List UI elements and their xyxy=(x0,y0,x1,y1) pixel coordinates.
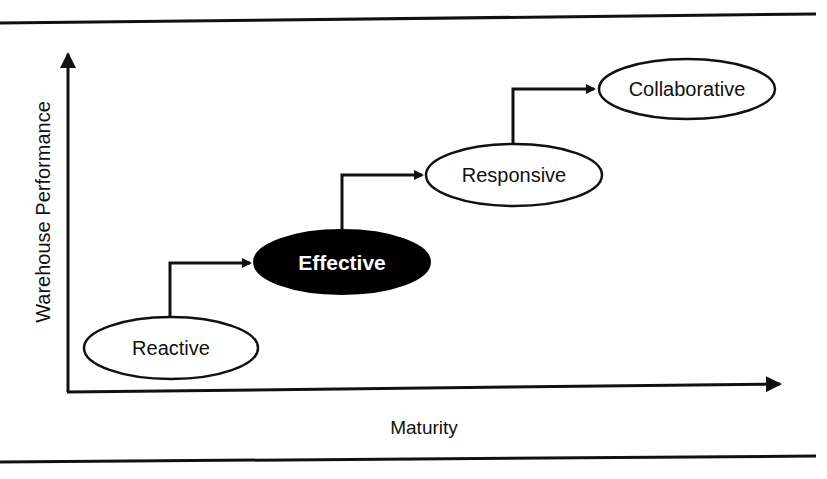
top-rule xyxy=(0,14,816,23)
step-arrow-2 xyxy=(342,175,422,230)
x-axis xyxy=(67,384,780,392)
stage-effective: Effective xyxy=(254,230,430,294)
stage-collaborative: Collaborative xyxy=(599,59,775,119)
y-axis-label: Warehouse Performance xyxy=(32,101,54,323)
stage-reactive: Reactive xyxy=(84,317,258,379)
stage-label: Collaborative xyxy=(629,78,746,100)
stage-label: Responsive xyxy=(462,164,567,186)
step-arrow-3 xyxy=(513,89,594,143)
x-axis-label: Maturity xyxy=(390,417,458,438)
stage-label: Effective xyxy=(298,251,386,274)
stage-label: Reactive xyxy=(132,337,210,359)
stage-responsive: Responsive xyxy=(426,144,602,206)
bottom-rule xyxy=(0,456,816,462)
maturity-diagram: Warehouse Performance Maturity Reactive … xyxy=(0,0,827,479)
step-arrow-1 xyxy=(170,263,250,317)
